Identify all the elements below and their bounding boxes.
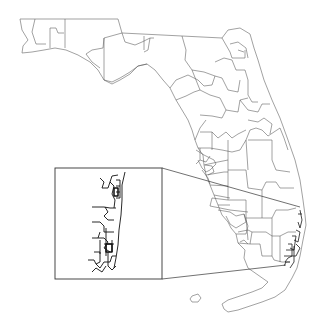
florida-district-map — [0, 0, 324, 333]
island-shape — [190, 294, 201, 302]
